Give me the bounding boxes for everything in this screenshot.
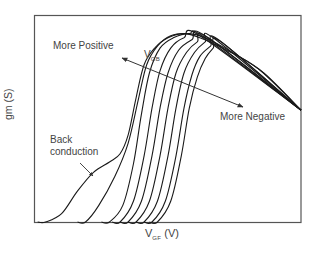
y-axis-label: gm (S) (2, 89, 14, 121)
x-axis-unit: (V) (164, 227, 179, 239)
annotation-more-negative: More Negative (220, 111, 285, 122)
gm-curve-7 (136, 33, 301, 223)
annotation-more-positive: More Positive (53, 40, 114, 51)
curves-group (38, 30, 301, 223)
annotation-vgb: VGB (144, 49, 160, 60)
x-axis-label: VGF (V) (145, 227, 179, 239)
gm-curve-3 (102, 31, 302, 223)
gm-curve-8 (144, 36, 301, 224)
gm-curve-4 (112, 30, 301, 223)
vgb-direction-arrow (122, 58, 243, 107)
gm-curve-1 (38, 34, 301, 223)
back-label-line2: conduction (50, 146, 98, 158)
vgb-sub: GB (151, 56, 160, 62)
transconductance-chart (0, 0, 316, 254)
x-axis-sub: GF (152, 235, 161, 241)
vgb-main: V (144, 49, 151, 60)
back-label-line1: Back (50, 134, 98, 146)
annotation-back-conduction: Back conduction (50, 134, 98, 158)
back-conduction-arrow (80, 163, 93, 176)
